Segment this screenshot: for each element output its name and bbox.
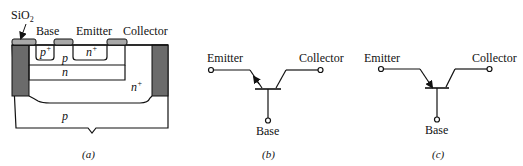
emitter-arrow-c [420, 69, 432, 87]
emitter-label: Emitter [76, 24, 112, 38]
oxide-label: SiO2 [11, 8, 34, 24]
collector-terminal-c [487, 67, 492, 72]
collector-terminal-b [318, 68, 323, 73]
p-substrate-label: p [61, 109, 68, 123]
emitter-terminal-c [379, 67, 384, 72]
oxide-block-3 [107, 39, 127, 45]
collector-label: Collector [123, 24, 168, 38]
base-terminal-c [435, 117, 440, 122]
p-region-label: p [61, 51, 68, 65]
panel-b-symbol: Emitter Collector Base (b) [207, 51, 344, 161]
figure-canvas: SiO2 Base Emitter Collector p+ p n+ n n+… [0, 0, 523, 166]
collector-label-b: Collector [299, 51, 344, 65]
left-isolation-region [12, 45, 29, 96]
panel-a-cross-section: SiO2 Base Emitter Collector p+ p n+ n n+… [11, 8, 168, 161]
caption-b: (b) [262, 148, 275, 161]
emitter-arrow-b [254, 77, 259, 84]
collector-diagonal-c [446, 69, 455, 87]
panel-c-symbol: Emitter Collector Base (c) [364, 51, 517, 161]
oxide-block-2 [54, 39, 73, 45]
base-label: Base [36, 24, 59, 38]
base-label-c: Base [425, 123, 448, 137]
oxide-pointer-arrow [21, 24, 26, 38]
base-terminal-b [266, 118, 271, 123]
emitter-label-c: Emitter [364, 51, 400, 65]
emitter-terminal-b [209, 68, 214, 73]
caption-c: (c) [432, 148, 445, 161]
emitter-label-b: Emitter [207, 51, 243, 65]
n-layer-label: n [62, 65, 68, 79]
collector-label-c: Collector [472, 51, 517, 65]
right-isolation-region [152, 45, 168, 96]
caption-a: (a) [82, 148, 95, 161]
base-label-b: Base [256, 124, 279, 138]
oxide-block-1 [12, 39, 36, 45]
collector-diagonal-b [276, 70, 286, 88]
